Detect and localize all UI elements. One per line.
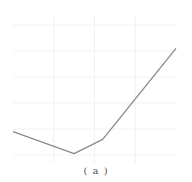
line-chart (0, 0, 192, 182)
figure-caption: ( a ) (0, 165, 192, 176)
